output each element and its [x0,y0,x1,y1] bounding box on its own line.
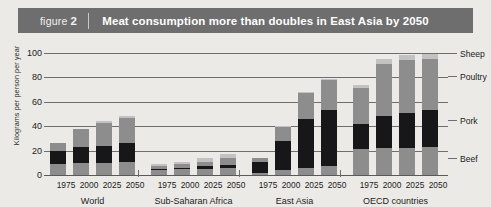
legend-leader-line [448,158,457,159]
bar-segment-beef [275,170,291,175]
group-separator [239,170,240,177]
legend-label: Beef [460,154,478,164]
group-label-oecd-countries: OECD countries [336,196,456,206]
bar-segment-beef [151,170,167,175]
chart-legend: SheepPoultryPorkBeef [448,33,491,207]
bar-segment-beef [252,173,268,175]
bar-east-asia-1975 [252,158,268,175]
bar-oecd-countries-2000 [376,59,392,175]
bar-east-asia-2000 [275,126,291,175]
x-axis-tick-2050: 2050 [120,180,150,190]
bar-sub-saharan-africa-2050 [220,154,236,175]
figure-label: figure 2 [18,15,77,27]
bar-segment-poultry [73,129,89,147]
figure-number: 2 [71,15,78,27]
bar-segment-poultry [119,118,135,144]
bar-segment-pork [321,110,337,166]
bar-segment-beef [96,163,112,175]
bar-segment-poultry [96,123,112,146]
bar-sub-saharan-africa-2025 [197,158,213,175]
bar-world-1975 [50,143,66,175]
bar-segment-beef [73,163,89,175]
y-axis-tick-20: 20 [18,146,42,156]
legend-leader-line [448,53,457,54]
bar-segment-beef [119,162,135,175]
group-separator [340,170,341,177]
bar-segment-beef [399,148,415,175]
y-axis-tick-60: 60 [18,97,42,107]
figure-container: figure 2 Meat consumption more than doub… [0,0,491,207]
bar-oecd-countries-1975 [353,85,369,175]
bar-segment-beef [298,168,314,175]
bar-segment-poultry [50,143,66,150]
bar-segment-poultry [422,59,438,110]
bar-segment-beef [422,147,438,175]
bar-segment-pork [422,110,438,147]
x-axis-tick-2050: 2050 [322,180,352,190]
bar-segment-poultry [298,93,314,119]
bar-sub-saharan-africa-2000 [174,162,190,175]
bar-segment-pork [399,113,415,148]
bar-segment-beef [174,169,190,175]
bar-segment-beef [353,149,369,175]
legend-item-poultry: Poultry [448,67,487,85]
bar-segment-poultry [220,158,236,165]
legend-label: Pork [460,116,478,126]
legend-item-pork: Pork [448,111,478,129]
bar-segment-pork [50,151,66,164]
bar-segment-pork [275,141,291,170]
bar-segment-poultry [353,88,369,123]
bar-segment-pork [119,143,135,161]
figure-title: Meat consumption more than doubles in Ea… [102,15,429,27]
bar-segment-beef [197,169,213,175]
y-axis-tick-80: 80 [18,72,42,82]
legend-leader-line [448,120,457,121]
bar-world-2050 [119,116,135,175]
bar-segment-poultry [399,60,415,112]
bar-segment-pork [252,162,268,173]
x-axis-tick-2050: 2050 [221,180,251,190]
figure-label-text: figure [40,15,67,27]
bar-segment-pork [73,147,89,163]
bar-segment-pork [353,124,369,150]
y-axis-tick-0: 0 [18,170,42,180]
legend-leader-line [448,76,457,77]
title-divider [88,13,89,29]
bar-segment-beef [220,168,236,175]
bar-world-2025 [96,121,112,175]
legend-label: Sheep [460,49,485,59]
figure-title-bar: figure 2 Meat consumption more than doub… [18,8,473,33]
bar-east-asia-2050 [321,79,337,175]
legend-item-sheep: Sheep [448,44,485,62]
legend-label: Poultry [460,72,487,82]
bar-east-asia-2025 [298,92,314,175]
bar-world-2000 [73,129,89,175]
chart-plot-area: Kilograms per person per year 0204060801… [0,33,491,207]
y-axis-tick-100: 100 [18,48,42,58]
bar-segment-poultry [275,127,291,140]
bar-sub-saharan-africa-1975 [151,164,167,175]
bar-segment-pork [376,116,392,148]
legend-item-beef: Beef [448,149,478,167]
bar-oecd-countries-2050 [422,54,438,175]
chart-bars: 1975200020252050World1975200020252050Sub… [44,33,448,207]
bar-segment-pork [96,146,112,163]
group-separator [138,170,139,177]
y-axis-tick-40: 40 [18,121,42,131]
bar-segment-beef [376,148,392,175]
bar-segment-poultry [321,80,337,111]
bar-segment-pork [298,119,314,168]
bar-segment-poultry [376,64,392,116]
bar-segment-beef [321,166,337,175]
bar-oecd-countries-2025 [399,55,415,175]
y-axis-ticks: 020406080100 [16,33,42,207]
bar-segment-beef [50,164,66,175]
